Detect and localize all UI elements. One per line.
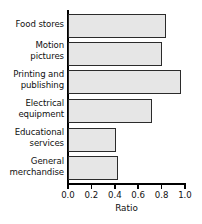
- x-tick-label-1: 0.2: [78, 190, 104, 200]
- category-label-electrical-equipment-line2: equipment: [0, 109, 64, 119]
- bar-general-merchandise: [68, 156, 118, 180]
- category-label-motion-pictures-line1: Motion: [0, 40, 64, 50]
- category-label-educational-services-line1: Educational: [0, 127, 64, 137]
- category-label-general-merchandise-line1: General: [0, 156, 64, 166]
- bar-row: [68, 128, 185, 152]
- x-tick-1: [91, 184, 93, 189]
- x-tick-label-0: 0.0: [55, 190, 81, 200]
- category-label-printing-and-publishing-line2: publishing: [0, 80, 64, 90]
- x-tick-4: [161, 184, 163, 189]
- x-tick-0: [67, 184, 69, 189]
- category-label-educational-services-line2: services: [0, 138, 64, 148]
- bar-row: [68, 99, 185, 123]
- bar-printing-and-publishing: [68, 70, 181, 94]
- bar-food-stores: [68, 14, 166, 38]
- bar-electrical-equipment: [68, 99, 152, 123]
- category-label-general-merchandise-line2: merchandise: [0, 167, 64, 177]
- x-tick-label-2: 0.4: [102, 190, 128, 200]
- bar-row: [68, 156, 185, 180]
- bar-row: [68, 42, 185, 66]
- bar-row: [68, 14, 185, 38]
- bar-educational-services: [68, 128, 116, 152]
- x-tick-label-4: 0.8: [149, 190, 175, 200]
- x-tick-5: [184, 184, 186, 189]
- category-label-motion-pictures-line2: pictures: [0, 51, 64, 61]
- bar-row: [68, 70, 185, 94]
- x-axis-title: Ratio: [68, 203, 185, 213]
- x-tick-label-5: 1.0: [172, 190, 198, 200]
- x-tick-3: [137, 184, 139, 189]
- x-tick-2: [114, 184, 116, 189]
- plot-area: [68, 11, 185, 184]
- category-label-food-stores: Food stores: [0, 19, 64, 29]
- category-label-electrical-equipment-line1: Electrical: [0, 98, 64, 108]
- x-tick-label-3: 0.6: [125, 190, 151, 200]
- bar-motion-pictures: [68, 42, 162, 66]
- bar-chart: Food stores Motion pictures Printing and…: [0, 0, 202, 224]
- category-label-printing-and-publishing-line1: Printing and: [0, 69, 64, 79]
